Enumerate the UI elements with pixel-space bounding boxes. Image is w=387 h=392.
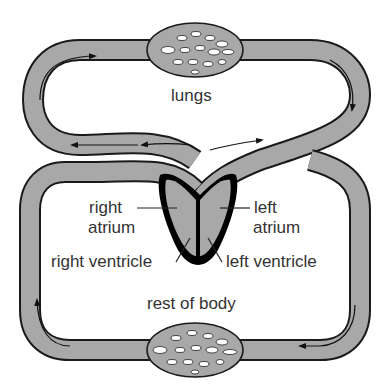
circulation-diagram	[0, 0, 387, 392]
label-left-atrium-line2: atrium	[253, 218, 300, 237]
label-left-ventricle: left ventricle	[226, 252, 317, 271]
lungs-capillary-bed	[147, 23, 243, 77]
label-rest-of-body: rest of body	[147, 294, 236, 313]
label-right-atrium-line2: atrium	[88, 218, 135, 237]
label-right-atrium-line1: right	[89, 198, 122, 217]
label-left-atrium-line1: left	[254, 198, 277, 217]
body-capillary-bed	[147, 323, 243, 377]
arrow-pulmonary-in	[210, 140, 262, 150]
label-lungs: lungs	[171, 86, 212, 105]
label-right-ventricle: right ventricle	[51, 252, 152, 271]
